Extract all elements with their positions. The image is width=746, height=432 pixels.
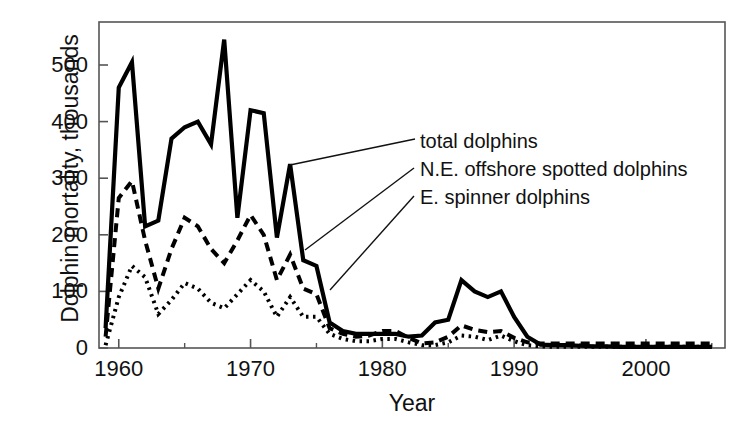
y-tick-label: 0 <box>10 335 88 361</box>
plot-frame <box>99 22 725 348</box>
x-tick-label: 2000 <box>621 356 670 382</box>
plot-frame-rect <box>99 22 725 348</box>
chart-figure: Dolphin mortality, thousands Year 010020… <box>0 0 746 432</box>
series-label-0: total dolphins <box>420 130 538 153</box>
series-label-1: N.E. offshore spotted dolphins <box>420 158 688 181</box>
series-label-2: E. spinner dolphins <box>420 186 590 209</box>
x-tick-label: 1970 <box>226 356 275 382</box>
y-tick-label: 500 <box>10 52 88 78</box>
x-tick-label: 1980 <box>358 356 407 382</box>
x-axis-title-wrap: Year <box>99 390 725 417</box>
x-tick-label: 1960 <box>94 356 143 382</box>
y-tick-label: 300 <box>10 165 88 191</box>
y-tick-label: 200 <box>10 222 88 248</box>
y-tick-label: 100 <box>10 278 88 304</box>
x-axis-title: Year <box>389 390 435 416</box>
x-tick-label: 1990 <box>490 356 539 382</box>
y-tick-label: 400 <box>10 109 88 135</box>
